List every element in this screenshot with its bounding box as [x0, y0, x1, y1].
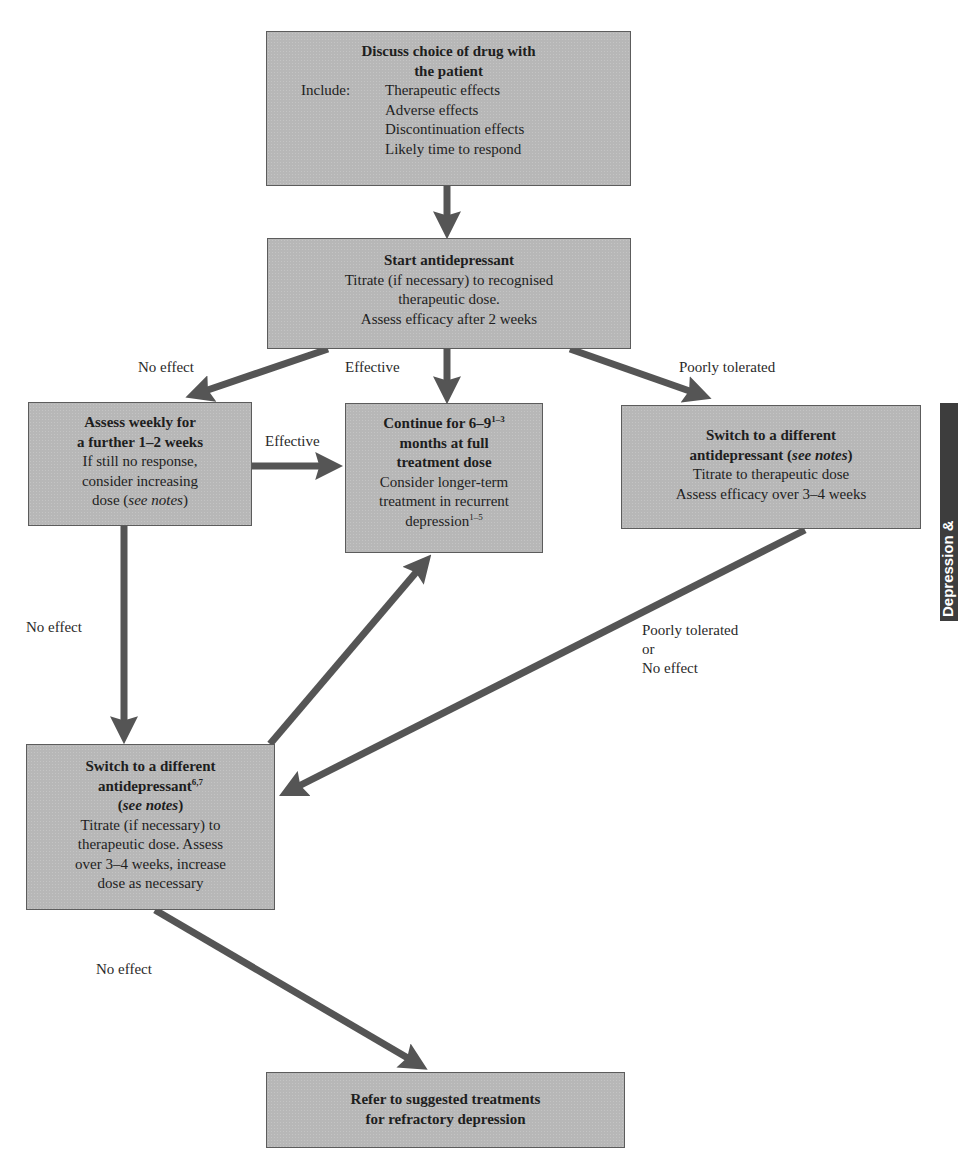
box-start-antidepressant: Start antidepressant Titrate (if necessa…	[267, 238, 631, 349]
box-refer-refractory: Refer to suggested treatments for refrac…	[266, 1072, 625, 1148]
include-item: Discontinuation effects	[385, 120, 524, 140]
refer-line2: for refractory depression	[267, 1110, 624, 1130]
switch-right-title-line1: Switch to a different	[622, 426, 920, 446]
continue-line2: treatment in recurrent	[346, 492, 542, 512]
include-item: Adverse effects	[385, 101, 524, 121]
assess-line1: If still no response,	[29, 452, 251, 472]
switch-right-line1: Titrate to therapeutic dose	[622, 465, 920, 485]
continue-line1: Consider longer-term	[346, 473, 542, 493]
label-switch-left-no-effect: No effect	[96, 960, 152, 979]
start-line2: therapeutic dose.	[268, 290, 630, 310]
switch-left-line2: therapeutic dose. Assess	[27, 835, 274, 855]
continue-title-line2: months at full	[346, 434, 542, 454]
box-continue-treatment: Continue for 6–91–3 months at full treat…	[345, 403, 543, 553]
label-assess-effective: Effective	[265, 432, 320, 451]
footnote-ref: 1–3	[491, 414, 505, 424]
assess-title-line1: Assess weekly for	[29, 413, 251, 433]
label-start-no-effect: No effect	[138, 358, 194, 377]
label-line: No effect	[642, 659, 738, 678]
refer-line1: Refer to suggested treatments	[267, 1090, 624, 1110]
start-line3: Assess efficacy after 2 weeks	[268, 310, 630, 330]
include-list: Therapeutic effects Adverse effects Disc…	[385, 81, 524, 159]
box-assess-weekly: Assess weekly for a further 1–2 weeks If…	[28, 402, 252, 526]
box-switch-antidepressant-right: Switch to a different antidepressant (se…	[621, 405, 921, 529]
label-start-effective: Effective	[345, 358, 400, 377]
arrow-switch-left-no-effect	[155, 910, 418, 1064]
label-switch-right-outcome: Poorly tolerated or No effect	[642, 621, 738, 678]
switch-right-line2: Assess efficacy over 3–4 weeks	[622, 485, 920, 505]
label-line: Poorly tolerated	[642, 621, 738, 640]
assess-line2: consider increasing	[29, 472, 251, 492]
include-label: Include:	[301, 81, 385, 159]
start-title: Start antidepressant	[268, 251, 630, 271]
switch-left-title-line1: Switch to a different	[27, 757, 274, 777]
switch-left-title-line2: antidepressant6,7	[27, 777, 274, 797]
start-line1: Titrate (if necessary) to recognised	[268, 271, 630, 291]
see-notes-ref: see notes	[123, 797, 178, 813]
footnote-ref: 1–5	[469, 512, 483, 522]
see-notes-ref: see notes	[792, 447, 847, 463]
discuss-title-line2: the patient	[267, 62, 630, 82]
continue-title-line3: treatment dose	[346, 453, 542, 473]
box-switch-antidepressant-left: Switch to a different antidepressant6,7 …	[26, 744, 275, 910]
arrow-start-no-effect	[196, 349, 328, 394]
switch-left-line4: dose as necessary	[27, 874, 274, 894]
label-line: or	[642, 640, 738, 659]
chapter-side-tab-text: Depression &	[940, 520, 956, 617]
see-notes-ref: see notes	[128, 492, 183, 508]
switch-right-title-line2: antidepressant (see notes)	[622, 446, 920, 466]
chapter-side-tab: Depression &	[940, 403, 958, 621]
switch-left-title-line3: (see notes)	[27, 796, 274, 816]
label-assess-no-effect: No effect	[26, 618, 82, 637]
continue-line3: depression1–5	[346, 512, 542, 532]
label-start-poorly-tolerated: Poorly tolerated	[679, 358, 775, 377]
box-discuss-drug-choice: Discuss choice of drug with the patient …	[266, 31, 631, 186]
include-item: Therapeutic effects	[385, 81, 524, 101]
assess-line3: dose (see notes)	[29, 491, 251, 511]
include-item: Likely time to respond	[385, 140, 524, 160]
continue-title-line1: Continue for 6–91–3	[346, 414, 542, 434]
discuss-title-line1: Discuss choice of drug with	[267, 42, 630, 62]
footnote-ref: 6,7	[192, 777, 203, 787]
arrow-switch-left-to-continue	[270, 563, 424, 744]
assess-title-line2: a further 1–2 weeks	[29, 433, 251, 453]
switch-left-line1: Titrate (if necessary) to	[27, 816, 274, 836]
switch-left-line3: over 3–4 weeks, increase	[27, 855, 274, 875]
include-row: Include: Therapeutic effects Adverse eff…	[267, 81, 630, 159]
